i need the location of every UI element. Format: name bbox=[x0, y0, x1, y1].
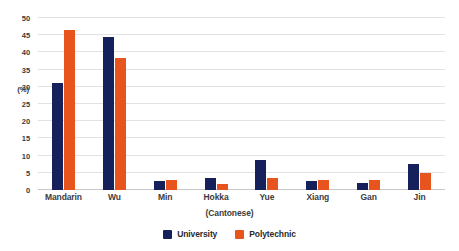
y-axis-tick-label: 45 bbox=[22, 31, 30, 40]
bar-university-gan bbox=[357, 183, 368, 190]
legend-swatch-icon bbox=[163, 230, 172, 239]
bar-group bbox=[205, 18, 228, 190]
y-axis-tick-label: 10 bbox=[22, 151, 30, 160]
bar-polytechnic-xiang bbox=[318, 180, 329, 190]
x-axis-tick-label: Yue bbox=[260, 192, 275, 202]
x-axis-tick-label: Hokka bbox=[204, 192, 229, 202]
bar-polytechnic-jin bbox=[420, 173, 431, 190]
legend-item-polytechnic[interactable]: Polytechnic bbox=[235, 229, 296, 239]
legend-label: Polytechnic bbox=[249, 229, 296, 239]
bar-university-mandarin bbox=[52, 83, 63, 190]
bar-polytechnic-yue bbox=[267, 178, 278, 190]
y-axis-tick-labels: 05101520253035404550 bbox=[0, 18, 34, 190]
bar-group bbox=[103, 18, 126, 190]
y-axis-tick-label: 15 bbox=[22, 134, 30, 143]
y-axis-tick-label: 50 bbox=[22, 14, 30, 23]
plot-area bbox=[38, 18, 445, 190]
bar-university-wu bbox=[103, 37, 114, 190]
bar-chart: (%) 05101520253035404550 MandarinWuMinHo… bbox=[0, 0, 459, 251]
x-axis-tick-label: Xiang bbox=[306, 192, 329, 202]
bar-university-min bbox=[154, 181, 165, 190]
bar-group bbox=[255, 18, 278, 190]
x-axis-tick-label: Mandarin bbox=[45, 192, 82, 202]
chart-legend: UniversityPolytechnic bbox=[0, 229, 459, 239]
legend-label: University bbox=[177, 229, 217, 239]
bar-university-yue bbox=[255, 160, 266, 190]
y-axis-tick-label: 5 bbox=[26, 168, 30, 177]
y-axis-tick-label: 30 bbox=[22, 82, 30, 91]
x-axis-tick-label: Gan bbox=[361, 192, 377, 202]
bar-group bbox=[154, 18, 177, 190]
x-axis-tick-labels: MandarinWuMinHokkaYueXiangGanJin bbox=[38, 192, 445, 208]
x-axis-title: (Cantonese) bbox=[0, 208, 459, 218]
bar-university-xiang bbox=[306, 181, 317, 190]
y-axis-tick-label: 0 bbox=[26, 186, 30, 195]
bar-group bbox=[52, 18, 75, 190]
bar-polytechnic-mandarin bbox=[64, 30, 75, 190]
bar-group bbox=[306, 18, 329, 190]
bar-polytechnic-wu bbox=[115, 58, 126, 190]
y-axis-tick-label: 20 bbox=[22, 117, 30, 126]
bar-polytechnic-hokka bbox=[217, 184, 228, 190]
bar-university-jin bbox=[408, 164, 419, 190]
legend-item-university[interactable]: University bbox=[163, 229, 217, 239]
y-axis-tick-label: 35 bbox=[22, 65, 30, 74]
bar-polytechnic-gan bbox=[369, 180, 380, 190]
bar-polytechnic-min bbox=[166, 180, 177, 190]
bar-group bbox=[357, 18, 380, 190]
y-axis-tick-label: 25 bbox=[22, 100, 30, 109]
legend-swatch-icon bbox=[235, 230, 244, 239]
x-axis-tick-label: Min bbox=[158, 192, 172, 202]
x-axis-tick-label: Jin bbox=[414, 192, 426, 202]
bars-layer bbox=[38, 18, 445, 190]
bar-group bbox=[408, 18, 431, 190]
bar-university-hokka bbox=[205, 178, 216, 190]
y-axis-tick-label: 40 bbox=[22, 48, 30, 57]
x-axis-tick-label: Wu bbox=[108, 192, 121, 202]
